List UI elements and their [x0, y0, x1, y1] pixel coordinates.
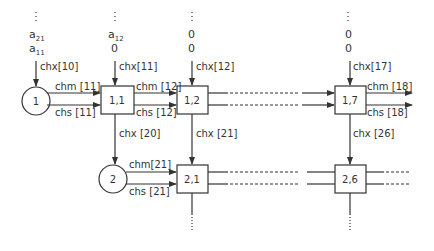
- label-chx11: chx[11]: [119, 61, 157, 72]
- cell-2-1-label: 2,1: [184, 174, 200, 185]
- top-ellipsis-dots: [36, 12, 348, 24]
- top-input-col2-line1: a12: [108, 28, 124, 43]
- label-chm11: chm [11]: [55, 81, 100, 92]
- label-chm21: chm[21]: [129, 159, 171, 170]
- label-chx26: chx [26]: [353, 128, 395, 139]
- label-chm18: chm [18]: [367, 81, 412, 92]
- label-chs21: chs [21]: [129, 186, 170, 197]
- label-chs18: chs [18]: [367, 107, 408, 118]
- diagram-svg: a21 a11 a12 0 0 0 0 0 chx[10] chx[11] ch…: [0, 0, 434, 251]
- top-inputs: a21 a11 a12 0 0 0 0 0: [29, 28, 352, 57]
- cell-1-2-label: 1,2: [184, 95, 200, 106]
- source-1-label: 1: [33, 96, 39, 107]
- label-chx20: chx [20]: [119, 128, 161, 139]
- label-chx17: chx[17]: [353, 61, 391, 72]
- top-input-col4-line2: 0: [345, 42, 352, 55]
- label-chs12: chs [12]: [136, 107, 177, 118]
- top-input-col2-line2: 0: [111, 42, 118, 55]
- top-input-col4-line1: 0: [345, 28, 352, 41]
- label-chx21: chx [21]: [196, 128, 238, 139]
- cell-1-7-label: 1,7: [342, 95, 358, 106]
- label-chs11: chs [11]: [55, 107, 96, 118]
- cell-2-6-label: 2,6: [342, 174, 358, 185]
- label-chm12: chm [12]: [136, 81, 181, 92]
- top-input-col1-line1: a21: [29, 28, 45, 43]
- top-input-col3-line1: 0: [188, 28, 195, 41]
- top-input-col3-line2: 0: [188, 42, 195, 55]
- top-input-col1-line2: a11: [29, 42, 45, 57]
- cell-1-1-label: 1,1: [109, 95, 125, 106]
- source-2-label: 2: [110, 174, 116, 185]
- diagram-canvas: a21 a11 a12 0 0 0 0 0 chx[10] chx[11] ch…: [0, 0, 434, 251]
- label-chx10: chx[10]: [40, 61, 78, 72]
- label-chx12: chx[12]: [196, 61, 234, 72]
